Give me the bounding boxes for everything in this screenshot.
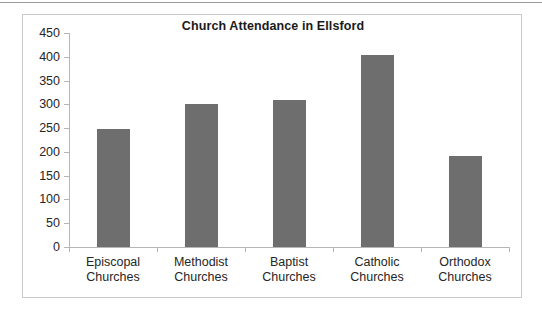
plot-area: 050100150200250300350400450 EpiscopalChu… [69,33,509,247]
y-tick-label: 250 [20,121,60,135]
y-tick-mark [64,57,69,58]
y-tick-label: 150 [20,169,60,183]
top-divider-rule [0,2,542,3]
y-tick-mark [64,176,69,177]
y-axis-line [69,33,70,247]
x-category-label: MethodistChurches [174,255,228,285]
bar[interactable] [361,55,394,247]
chart-title: Church Attendance in Ellsford [23,19,523,33]
x-category-label: BaptistChurches [262,255,316,285]
x-tick-mark [333,247,334,252]
x-category-label-line: Catholic [350,255,404,270]
y-tick-mark [64,152,69,153]
y-tick-label: 300 [20,97,60,111]
y-tick-label: 100 [20,192,60,206]
x-category-label-line: Orthodox [438,255,492,270]
y-tick-label: 50 [20,216,60,230]
x-category-label-line: Churches [438,270,492,285]
bar[interactable] [185,104,218,247]
x-category-label: OrthodoxChurches [438,255,492,285]
bar[interactable] [97,129,130,247]
x-category-label-line: Churches [174,270,228,285]
y-tick-label: 450 [20,26,60,40]
y-tick-mark [64,223,69,224]
y-tick-label: 400 [20,50,60,64]
x-category-label-line: Baptist [262,255,316,270]
x-category-label-line: Episcopal [86,255,140,270]
x-tick-mark [69,247,70,252]
chart-frame: Church Attendance in Ellsford 0501001502… [22,14,522,298]
x-category-label-line: Churches [86,270,140,285]
x-category-label: CatholicChurches [350,255,404,285]
y-tick-label: 350 [20,74,60,88]
y-tick-label: 200 [20,145,60,159]
y-tick-mark [64,104,69,105]
x-category-label-line: Churches [350,270,404,285]
bar[interactable] [449,156,482,247]
y-tick-mark [64,128,69,129]
x-axis-line [69,247,509,248]
x-tick-mark [245,247,246,252]
x-tick-mark [509,247,510,252]
x-category-label-line: Churches [262,270,316,285]
x-category-label: EpiscopalChurches [86,255,140,285]
y-tick-mark [64,199,69,200]
x-category-label-line: Methodist [174,255,228,270]
y-tick-mark [64,33,69,34]
y-tick-label: 0 [20,240,60,254]
x-tick-mark [157,247,158,252]
bar[interactable] [273,100,306,247]
y-tick-mark [64,81,69,82]
x-tick-mark [421,247,422,252]
